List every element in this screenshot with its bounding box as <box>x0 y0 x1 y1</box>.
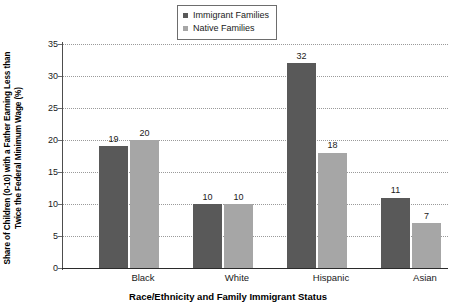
bar-native-hispanic <box>318 153 347 268</box>
legend-label-native-families: Native Families <box>193 24 255 33</box>
y-axis-line <box>62 42 63 270</box>
x-tick-label-black: Black <box>95 273 191 283</box>
bar-immigrant-hispanic <box>287 63 316 268</box>
plot-area: 19 20 10 10 32 18 11 7 <box>62 44 448 268</box>
legend-item-immigrant-families: Immigrant Families <box>183 9 269 22</box>
bar-native-white <box>224 204 253 268</box>
x-tick-label-hispanic: Hispanic <box>283 273 379 283</box>
bar-value-immigrant-hispanic: 32 <box>287 52 317 61</box>
bar-group-hispanic: 32 18 <box>283 44 379 268</box>
chart-legend: Immigrant Families Native Families <box>177 5 277 40</box>
bar-group-asian: 11 7 <box>377 44 456 268</box>
y-tick-label: 25 <box>38 104 58 113</box>
y-tick-label: 30 <box>38 72 58 81</box>
x-axis-title: Race/Ethnicity and Family Immigrant Stat… <box>0 291 456 302</box>
legend-item-native-families: Native Families <box>183 22 269 35</box>
x-tick-label-asian: Asian <box>377 273 456 283</box>
bar-native-asian <box>412 223 441 268</box>
y-tick-label: 15 <box>38 168 58 177</box>
y-axis-title-line2: Twice the Federal Minimum Wage (%) <box>13 87 22 229</box>
bar-value-native-white: 10 <box>224 193 254 202</box>
bar-group-white: 10 10 <box>189 44 285 268</box>
bar-value-immigrant-white: 10 <box>193 193 223 202</box>
bar-value-immigrant-asian: 11 <box>381 186 411 195</box>
y-tick-label: 10 <box>38 200 58 209</box>
bar-value-immigrant-black: 19 <box>99 135 129 144</box>
bar-native-black <box>130 140 159 268</box>
bar-immigrant-black <box>99 146 128 268</box>
bar-group-black: 19 20 <box>95 44 191 268</box>
y-tick-label: 0 <box>38 264 58 273</box>
y-axis-tick-labels: 35 30 25 20 15 10 5 0 <box>36 44 58 268</box>
legend-swatch-icon-immigrant <box>183 13 188 18</box>
bar-value-native-hispanic: 18 <box>318 141 348 150</box>
legend-swatch-icon-native <box>183 26 188 31</box>
y-tick-label: 35 <box>38 40 58 49</box>
bar-immigrant-white <box>193 204 222 268</box>
bar-value-native-asian: 7 <box>412 212 442 221</box>
y-axis-title: Share of Children (0-10) with a Father E… <box>0 40 26 276</box>
x-axis-line <box>62 268 448 270</box>
y-tick-label: 20 <box>38 136 58 145</box>
x-tick-label-white: White <box>189 273 285 283</box>
y-tick-label: 5 <box>38 232 58 241</box>
y-axis-title-line1: Share of Children (0-10) with a Father E… <box>3 52 12 265</box>
legend-label-immigrant-families: Immigrant Families <box>193 11 269 20</box>
bar-value-native-black: 20 <box>130 129 160 138</box>
bar-immigrant-asian <box>381 198 410 268</box>
